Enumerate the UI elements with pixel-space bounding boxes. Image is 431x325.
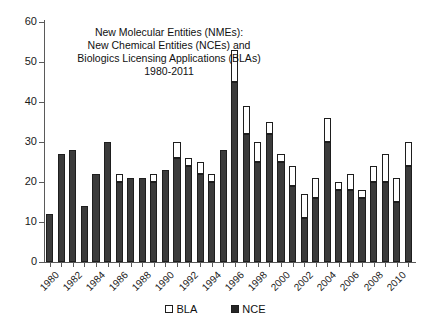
- x-axis-tick: [177, 263, 178, 267]
- y-axis-tick: [39, 262, 44, 263]
- x-axis-tick: [408, 263, 409, 267]
- bar-segment-nce: [289, 186, 296, 262]
- bar-segment-nce: [254, 162, 261, 262]
- x-axis-tick: [119, 263, 120, 267]
- y-axis-tick-label: 50: [25, 56, 37, 67]
- bar-segment-nce: [46, 214, 53, 262]
- open-square-icon: [165, 305, 173, 313]
- bar-segment-nce: [231, 82, 238, 262]
- x-axis-tick: [304, 263, 305, 267]
- legend-label: NCE: [242, 303, 265, 315]
- x-axis-tick: [327, 263, 328, 267]
- bar-segment-nce: [92, 174, 99, 262]
- bar-segment-nce: [208, 182, 215, 262]
- bar-segment-nce: [69, 150, 76, 262]
- y-axis-tick-label: 40: [25, 96, 37, 107]
- x-axis-tick-label: 1980: [33, 270, 61, 298]
- x-axis-tick-label: 2010: [379, 270, 407, 298]
- x-axis-tick: [362, 263, 363, 267]
- x-axis-tick: [131, 263, 132, 267]
- bar-segment-nce: [150, 182, 157, 262]
- bar-2006: [347, 22, 354, 262]
- bar-segment-nce: [162, 170, 169, 262]
- bar-segment-nce: [81, 206, 88, 262]
- bar-segment-bla: [277, 154, 284, 162]
- bar-2008: [370, 22, 377, 262]
- bar-segment-bla: [312, 178, 319, 198]
- bar-segment-nce: [104, 142, 111, 262]
- x-axis-tick-label: 1992: [171, 270, 199, 298]
- bar-segment-nce: [116, 182, 123, 262]
- x-axis-tick: [142, 263, 143, 267]
- x-axis-tick: [397, 263, 398, 267]
- chart-title-line-2: New Chemical Entities (NCEs) and: [54, 39, 284, 52]
- x-axis-tick-label: 1998: [241, 270, 269, 298]
- chart-title-line-3: Biologics Licensing Applications (BLAs): [54, 52, 284, 65]
- x-axis-tick-label: 1996: [218, 270, 246, 298]
- x-axis-tick: [108, 263, 109, 267]
- bar-segment-nce: [347, 190, 354, 262]
- bar-segment-nce: [358, 198, 365, 262]
- x-axis-tick: [96, 263, 97, 267]
- bar-segment-bla: [324, 118, 331, 142]
- x-axis-tick: [154, 263, 155, 267]
- bar-segment-bla: [116, 174, 123, 182]
- chart-container: 0102030405060 19801982198419861988199019…: [0, 0, 431, 325]
- x-axis-tick: [281, 263, 282, 267]
- bar-segment-nce: [382, 182, 389, 262]
- x-axis-tick-label: 1990: [148, 270, 176, 298]
- bar-segment-nce: [139, 178, 146, 262]
- x-axis-tick-label: 1984: [79, 270, 107, 298]
- bar-2005: [335, 22, 342, 262]
- chart-title-line-4: 1980-2011: [54, 65, 284, 78]
- bar-segment-bla: [370, 166, 377, 182]
- x-axis-tick: [200, 263, 201, 267]
- bar-segment-bla: [208, 174, 215, 182]
- bar-segment-bla: [405, 142, 412, 166]
- x-axis-tick: [269, 263, 270, 267]
- bar-segment-nce: [220, 150, 227, 262]
- bar-segment-bla: [197, 162, 204, 174]
- x-axis-tick-label: 1994: [194, 270, 222, 298]
- chart-title-line-1: New Molecular Entities (NMEs):: [54, 26, 284, 39]
- y-axis-tick-label: 30: [25, 136, 37, 147]
- bar-segment-nce: [185, 166, 192, 262]
- y-axis-tick-label: 20: [25, 176, 37, 187]
- legend-item-bla: BLA: [165, 303, 197, 315]
- bar-segment-bla: [335, 182, 342, 190]
- y-axis-tick-label: 60: [25, 16, 37, 27]
- x-axis-tick-label: 2000: [264, 270, 292, 298]
- x-axis-tick: [258, 263, 259, 267]
- bar-2001: [289, 22, 296, 262]
- bar-segment-bla: [393, 178, 400, 202]
- y-axis-tick-label: 0: [31, 256, 37, 267]
- x-axis-tick-label: 1986: [102, 270, 130, 298]
- bar-2004: [324, 22, 331, 262]
- x-axis-tick: [316, 263, 317, 267]
- bar-2009: [382, 22, 389, 262]
- x-axis-tick: [293, 263, 294, 267]
- bar-segment-nce: [324, 142, 331, 262]
- x-axis-tick: [50, 263, 51, 267]
- bar-segment-bla: [173, 142, 180, 158]
- x-axis-tick-label: 2002: [287, 270, 315, 298]
- x-axis-tick: [235, 263, 236, 267]
- chart-title: New Molecular Entities (NMEs):New Chemic…: [54, 26, 284, 78]
- x-axis-tick: [385, 263, 386, 267]
- bar-segment-bla: [254, 142, 261, 162]
- x-axis-tick: [165, 263, 166, 267]
- x-axis-tick-label: 2004: [310, 270, 338, 298]
- y-axis-tick-label: 10: [25, 216, 37, 227]
- bar-segment-bla: [347, 174, 354, 190]
- filled-square-icon: [231, 305, 239, 313]
- x-axis-tick-label: 2008: [356, 270, 384, 298]
- legend-item-nce: NCE: [231, 303, 265, 315]
- legend-label: BLA: [176, 303, 197, 315]
- x-axis-tick: [374, 263, 375, 267]
- x-axis-tick: [212, 263, 213, 267]
- bar-segment-nce: [243, 134, 250, 262]
- bar-segment-bla: [266, 122, 273, 134]
- bar-2010: [393, 22, 400, 262]
- bar-2007: [358, 22, 365, 262]
- x-axis-line: [44, 262, 416, 263]
